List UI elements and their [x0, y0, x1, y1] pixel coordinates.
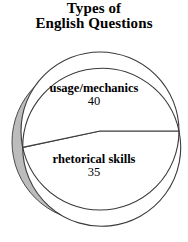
pie-label-usage-mechanics-value: 40: [0, 95, 188, 108]
pie-chart-canvas: [0, 0, 188, 242]
pie-label-rhetorical-skills: rhetorical skills 35: [0, 153, 188, 179]
pie-label-usage-mechanics: usage/mechanics 40: [0, 82, 188, 108]
pie-chart-svg: [0, 0, 188, 242]
pie-label-rhetorical-skills-value: 35: [0, 166, 188, 179]
pie-chart-figure: Types of English Questions: [0, 0, 188, 242]
